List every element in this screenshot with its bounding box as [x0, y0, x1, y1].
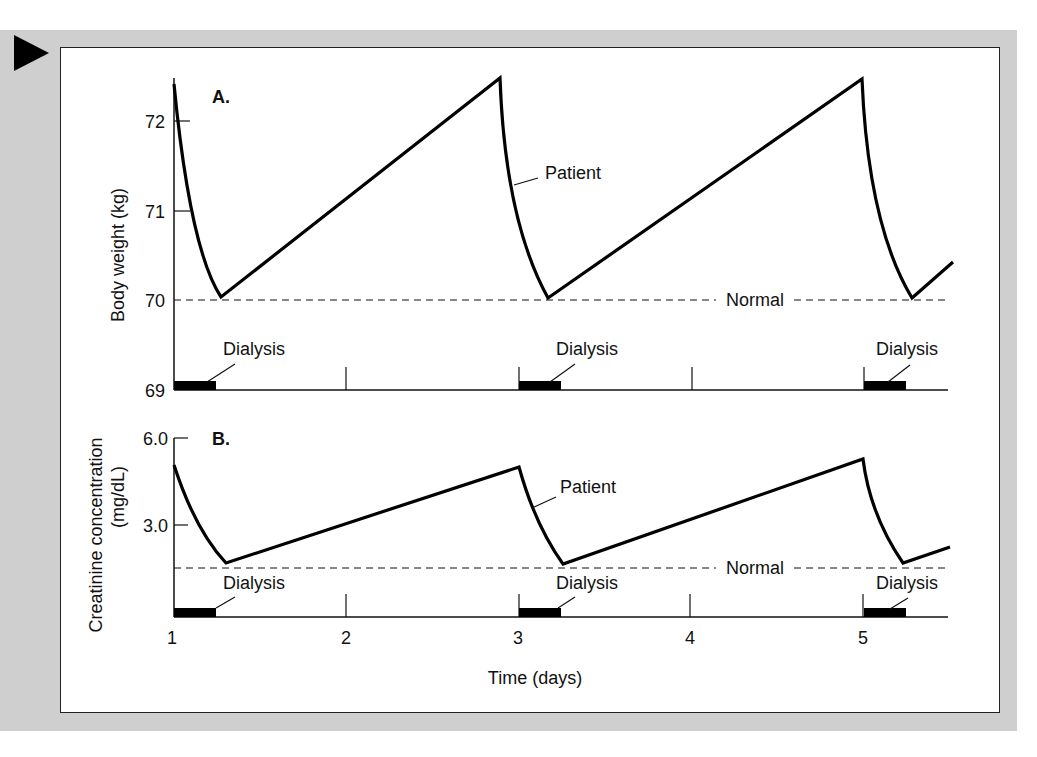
- panel-b-title: B.: [212, 429, 230, 449]
- xtick-4: 4: [685, 628, 695, 648]
- panel-a-dialysis-bar-1: [174, 381, 216, 390]
- panel-a-ytick-70: 70: [145, 291, 165, 311]
- panel-a-dialysis-bar-3: [864, 381, 906, 390]
- xtick-2: 2: [341, 628, 351, 648]
- panel-b-dialysis-label-1: Dialysis: [223, 573, 285, 593]
- panel-a-normal-label: Normal: [726, 290, 784, 310]
- panel-a-ytick-72: 72: [145, 112, 165, 132]
- panel-b-dialysis-bar-1: [174, 608, 216, 617]
- panel-b-ytick-3: 3.0: [143, 516, 168, 536]
- panel-b: 6.0 3.0 Creatinine concentration (mg/dL)…: [86, 429, 950, 688]
- xtick-3: 3: [513, 628, 523, 648]
- panel-a-dialysis-label-2: Dialysis: [556, 339, 618, 359]
- xtick-1: 1: [167, 628, 177, 648]
- panel-a-patient-curve: [174, 78, 953, 298]
- panel-b-patient-curve: [174, 459, 950, 564]
- panel-a-y-label: Body weight (kg): [108, 188, 128, 322]
- panel-a: 72 71 70 69 Body weight (kg) A. Normal P…: [108, 78, 953, 401]
- panel-b-y-label-line1: Creatinine concentration: [86, 437, 106, 632]
- panel-b-dialysis-bar-3: [864, 608, 906, 617]
- panel-b-dialysis-label-2: Dialysis: [556, 573, 618, 593]
- xtick-5: 5: [858, 628, 868, 648]
- panel-a-title: A.: [212, 87, 230, 107]
- panel-a-dialysis-label-3: Dialysis: [876, 339, 938, 359]
- panel-b-patient-label: Patient: [560, 477, 616, 497]
- panel-b-ytick-6: 6.0: [143, 429, 168, 449]
- panel-a-dialysis-label-1: Dialysis: [223, 339, 285, 359]
- panel-a-ytick-69: 69: [145, 381, 165, 401]
- panel-b-y-label-line2: (mg/dL): [108, 466, 128, 528]
- panel-b-dialysis-bar-2: [519, 608, 561, 617]
- x-axis-label: Time (days): [488, 668, 582, 688]
- panel-a-patient-label: Patient: [545, 163, 601, 183]
- panel-a-dialysis-bar-2: [519, 381, 561, 390]
- panel-b-normal-label: Normal: [726, 558, 784, 578]
- panel-a-ytick-71: 71: [145, 202, 165, 222]
- figure-svg: 72 71 70 69 Body weight (kg) A. Normal P…: [0, 0, 1037, 757]
- panel-b-dialysis-label-3: Dialysis: [876, 573, 938, 593]
